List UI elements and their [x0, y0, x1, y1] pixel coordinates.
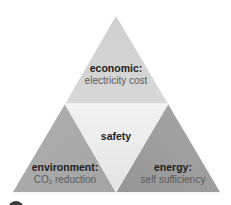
co2-suffix: reduction	[52, 174, 96, 185]
energy-title: energy:	[130, 162, 216, 173]
economic-title: economic:	[66, 63, 166, 74]
label-safety: safety	[86, 131, 146, 142]
bullet-circle-icon	[9, 201, 23, 205]
safety-title: safety	[86, 131, 146, 142]
environment-subtitle: CO2 reduction	[22, 175, 108, 185]
label-environment: environment: CO2 reduction	[22, 162, 108, 185]
economic-subtitle: electricity cost	[66, 76, 166, 86]
environment-title: environment:	[22, 162, 108, 173]
energy-subtitle: self sufficiency	[130, 175, 216, 185]
label-energy: energy: self sufficiency	[130, 162, 216, 185]
segment-top-economic	[65, 16, 168, 104]
label-economic: economic: electricity cost	[66, 63, 166, 86]
co2-prefix: CO	[34, 174, 49, 185]
